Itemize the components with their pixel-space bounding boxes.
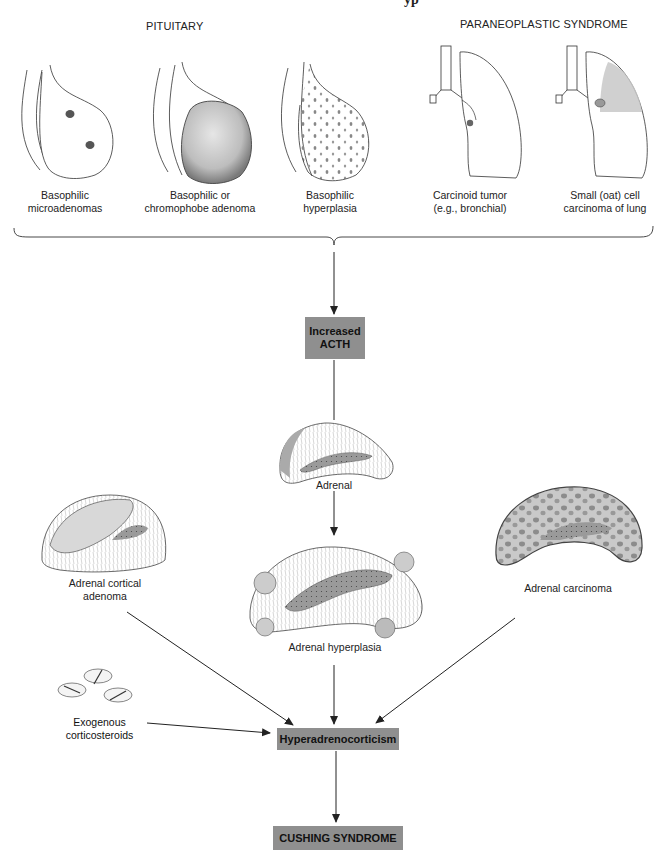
arrow-carcinoma-to-hyper: [376, 618, 515, 723]
label-adrenal-hyperplasia: Adrenal hyperplasia: [280, 641, 390, 654]
cause-label-carcinoid: Carcinoid tumor(e.g., bronchial): [420, 189, 520, 215]
adrenal-carcinoma-illustration: [496, 487, 642, 565]
arrow-exogenous-to-hyper: [147, 723, 270, 733]
pituitary-adenoma-illustration: [153, 62, 251, 184]
pituitary-microadenomas-illustration: [22, 65, 113, 179]
adrenal-hyperplasia-illustration: [250, 547, 422, 638]
node-increased-acth: IncreasedACTH: [305, 317, 365, 359]
cause-label-hyperplasia: Basophilichyperplasia: [290, 189, 370, 215]
adrenal-cortical-adenoma-illustration: [42, 495, 166, 572]
lung-carcinoid-illustration: [430, 46, 521, 178]
node-hyperadrenocorticism: Hyperadrenocorticism: [277, 728, 399, 750]
label-exogenous-corticosteroids: Exogenouscorticosteroids: [52, 716, 147, 742]
adrenal-illustration: [280, 423, 393, 483]
label-adrenal-cortical-adenoma: Adrenal corticaladenoma: [55, 577, 155, 603]
lung-small-cell-illustration: [556, 46, 647, 178]
title-fragment: yp: [404, 0, 419, 8]
cause-label-small-cell: Small (oat) cellcarcinoma of lung: [550, 189, 660, 215]
label-adrenal-carcinoma: Adrenal carcinoma: [518, 582, 618, 595]
cause-label-microadenomas: Basophilicmicroadenomas: [25, 189, 105, 215]
cause-label-adenoma: Basophilic orchromophobe adenoma: [140, 189, 260, 215]
label-adrenal: Adrenal: [304, 479, 364, 492]
pituitary-hyperplasia-illustration: [281, 62, 368, 181]
node-cushing-syndrome: CUSHING SYNDROME: [273, 826, 403, 850]
grouping-brace: [14, 226, 653, 245]
header-paraneoplastic: PARANEOPLASTIC SYNDROME: [460, 18, 628, 30]
header-pituitary: PITUITARY: [146, 20, 203, 32]
pills-illustration: [58, 669, 132, 702]
